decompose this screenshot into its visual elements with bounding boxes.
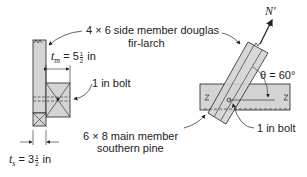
force-label: N′ bbox=[265, 5, 276, 17]
side-member-label-2: fir-larch bbox=[128, 37, 165, 49]
left-section-view bbox=[20, 31, 92, 145]
angle-label: θ = 60° bbox=[260, 69, 295, 81]
bolt-label-right: 1 in bolt bbox=[257, 122, 296, 134]
main-member-label-2: southern pine bbox=[97, 142, 164, 154]
tm-dimension-label: tm = 512 in bbox=[51, 50, 96, 67]
side-member-left bbox=[33, 40, 46, 113]
main-member-label: 6 × 8 main member bbox=[83, 130, 178, 142]
ts-dimension-label: ts = 312 in bbox=[9, 153, 51, 170]
side-member-label: 4 × 6 side member douglas bbox=[86, 24, 219, 36]
bolt-label-left: 1 in bolt bbox=[92, 77, 131, 89]
